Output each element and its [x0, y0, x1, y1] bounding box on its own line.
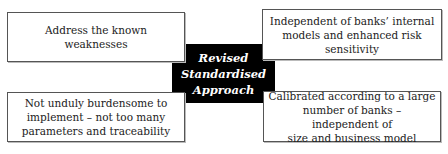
center-line-3: Approach [181, 82, 266, 98]
box-text-line: Independent of banks’ internal [270, 14, 434, 28]
box-text-line: Calibrated according to a large [268, 89, 436, 103]
box-text-line: Not unduly burdensome to [22, 96, 171, 110]
center-line-1: Revised [181, 50, 266, 66]
box-independent-internal-models: Independent of banks’ internal models an… [262, 9, 442, 60]
box-address-weaknesses: Address the known weaknesses [7, 12, 185, 62]
box-text-line: number of banks – independent of [268, 103, 436, 131]
box-calibrated-large-number-banks: Calibrated according to a large number o… [263, 91, 441, 142]
center-concept-revised-standardised-approach: Revised Standardised Approach [172, 44, 275, 103]
box-text-line: size and business model [268, 131, 436, 145]
box-not-unduly-burdensome: Not unduly burdensome to implement – not… [7, 92, 185, 142]
box-text-line: parameters and traceability [22, 124, 171, 138]
box-text-line: sensitivity [270, 42, 434, 56]
box-text-line: Address the known weaknesses [12, 23, 180, 51]
box-text-line: models and enhanced risk [270, 28, 434, 42]
box-text-line: implement – not too many [22, 110, 171, 124]
center-line-2: Standardised [181, 66, 266, 82]
